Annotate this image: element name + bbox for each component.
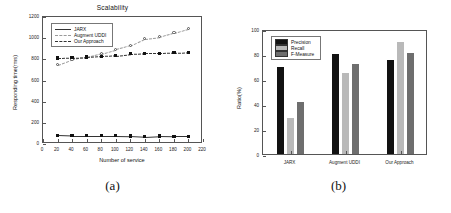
- legend-item-label: JARX: [74, 27, 86, 32]
- series-point-jarx: [85, 134, 88, 137]
- series-point-jarx: [158, 134, 161, 137]
- axis-y-tick-label: 1200: [18, 14, 39, 19]
- series-point-augment-uddi: [114, 48, 117, 51]
- bar-our-approach-recall: [397, 42, 404, 155]
- legend-item-label: Our Approach: [74, 39, 104, 44]
- axis-y-tick-label: 1000: [18, 35, 39, 40]
- legend-swatch: [275, 51, 288, 58]
- bar-augment-uddi-f-measure: [352, 64, 359, 154]
- axis-y-tick-label: 80: [242, 53, 259, 58]
- legend-item-label: Precision: [291, 40, 311, 45]
- axis-y-tick-label: 20: [242, 128, 259, 133]
- axis-x-tick-label: 60: [83, 147, 88, 152]
- axis-x-tick-label: 140: [140, 147, 148, 152]
- axis-y-tick: [263, 31, 266, 32]
- axis-x-tick: [346, 151, 347, 154]
- series-line-segment: [145, 37, 160, 40]
- axis-y-tick: [43, 144, 46, 145]
- axis-x-tick-label: 40: [69, 147, 74, 152]
- chart-b-yaxis-title: Ratio(%): [236, 87, 242, 109]
- panel-a: Scalability JARXAugment UDDIOur Approach…: [0, 0, 225, 213]
- legend-item-label: Recall: [291, 46, 304, 51]
- axis-y-tick: [263, 106, 266, 107]
- chart-a-xaxis-title: Number of service: [99, 157, 144, 163]
- panel-a-caption: (a): [0, 178, 225, 194]
- axis-y-tick: [263, 156, 266, 157]
- series-point-jarx: [187, 135, 190, 138]
- series-point-our-approach: [100, 55, 103, 58]
- axis-x-category-label: Our Approach: [385, 160, 413, 165]
- axis-y-tick-label: 60: [242, 78, 259, 83]
- axis-x-tick-label: 220: [198, 147, 206, 152]
- series-point-our-approach: [85, 55, 88, 58]
- series-point-our-approach: [172, 51, 175, 54]
- axis-x-tick-label: 180: [169, 147, 177, 152]
- panel-b-caption: (b): [226, 178, 451, 194]
- series-point-our-approach: [70, 56, 73, 59]
- chart-a-yaxis-title: Responding time(rms): [12, 54, 18, 109]
- axis-x-category-label: Augment UDDI: [329, 160, 360, 165]
- series-point-augment-uddi: [187, 27, 190, 30]
- axis-y-tick-label: 0: [18, 141, 39, 146]
- chart-b-plot-area: PrecisionRecallF-Measure: [262, 30, 427, 155]
- axis-y-tick-label: 0: [242, 153, 259, 158]
- chart-a-plot-area: JARXAugment UDDIOur Approach: [42, 16, 202, 143]
- axis-y-tick: [263, 131, 266, 132]
- axis-x-tick: [291, 151, 292, 154]
- chart-b-legend: PrecisionRecallF-Measure: [271, 36, 321, 60]
- chart-a-legend: JARXAugment UDDIOur Approach: [51, 23, 113, 47]
- axis-x-tick: [401, 151, 402, 154]
- legend-item-label: F-Measure: [291, 52, 314, 57]
- series-point-augment-uddi: [129, 44, 132, 47]
- legend-point: [61, 39, 64, 42]
- axis-y-tick-label: 200: [18, 119, 39, 124]
- axis-x-tick-label: 80: [98, 147, 103, 152]
- legend-item: Our Approach: [55, 38, 109, 44]
- series-point-augment-uddi: [172, 31, 175, 34]
- series-point-our-approach: [129, 52, 132, 55]
- axis-x-category-label: JARX: [284, 160, 296, 165]
- series-point-jarx: [172, 135, 175, 138]
- series-point-jarx: [70, 134, 73, 137]
- axis-x-tick-label: 200: [184, 147, 192, 152]
- series-line-segment: [116, 46, 131, 51]
- bar-augment-uddi-precision: [332, 54, 339, 154]
- series-point-our-approach: [114, 54, 117, 57]
- bar-jarx-precision: [277, 67, 284, 155]
- axis-y-tick-label: 40: [242, 103, 259, 108]
- figure-container: Scalability JARXAugment UDDIOur Approach…: [0, 0, 451, 213]
- axis-y-tick: [263, 56, 266, 57]
- legend-item-label: Augment UDDI: [74, 33, 106, 38]
- bar-our-approach-precision: [387, 60, 394, 154]
- series-point-our-approach: [56, 56, 59, 59]
- bar-jarx-f-measure: [297, 102, 304, 155]
- series-point-jarx: [114, 134, 117, 137]
- panel-b: PrecisionRecallF-Measure (b) 02040608010…: [226, 0, 451, 213]
- legend-marker: [55, 38, 71, 44]
- series-point-our-approach: [158, 52, 161, 55]
- axis-x-tick-label: 0: [41, 147, 44, 152]
- series-point-jarx: [100, 134, 103, 137]
- series-point-our-approach: [143, 52, 146, 55]
- series-point-jarx: [56, 134, 59, 137]
- axis-y-tick: [263, 81, 266, 82]
- series-point-our-approach: [187, 51, 190, 54]
- series-line-segment: [130, 39, 145, 47]
- chart-a-title: Scalability: [0, 4, 225, 11]
- axis-x-tick-label: 120: [125, 147, 133, 152]
- bar-our-approach-f-measure: [407, 53, 414, 154]
- axis-y-tick-label: 600: [18, 77, 39, 82]
- bar-augment-uddi-recall: [342, 73, 349, 154]
- axis-x-tick: [203, 139, 204, 142]
- axis-x-tick-label: 20: [54, 147, 59, 152]
- legend-item: F-Measure: [275, 51, 317, 57]
- legend-point: [61, 27, 64, 30]
- axis-x-tick-label: 100: [111, 147, 119, 152]
- series-point-jarx: [143, 135, 146, 138]
- series-point-jarx: [129, 134, 132, 137]
- series-point-augment-uddi: [56, 63, 59, 66]
- axis-x-tick-label: 160: [155, 147, 163, 152]
- axis-y-tick-label: 100: [242, 28, 259, 33]
- axis-y-tick-label: 400: [18, 98, 39, 103]
- axis-y-tick-label: 800: [18, 56, 39, 61]
